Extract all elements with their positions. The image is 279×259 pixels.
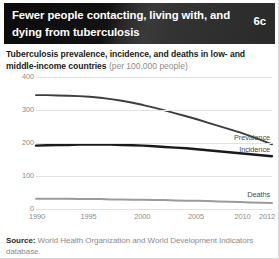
y-axis-tick-label: 300 <box>14 105 34 114</box>
line-chart: 4003002001000199019952000200520102012Pre… <box>0 0 279 259</box>
chart-panel: Fewer people contacting, living with, an… <box>0 0 279 259</box>
series-line-deaths <box>36 199 272 203</box>
gridline <box>36 110 272 111</box>
series-label-deaths: Deaths <box>0 190 270 199</box>
source-text: World Health Organization and World Deve… <box>6 236 253 256</box>
y-axis-tick-label: 100 <box>14 171 34 180</box>
x-axis-tick-label: 1990 <box>29 212 45 221</box>
gridline <box>36 176 272 177</box>
x-axis-tick-label: 2000 <box>134 212 150 221</box>
source-note: Source: World Health Organization and Wo… <box>6 236 272 257</box>
x-axis-tick-label: 2005 <box>188 212 204 221</box>
series-label-incidence: Incidence <box>0 145 270 154</box>
series-label-prevalence: Prevalence <box>0 133 270 142</box>
source-label: Source: <box>6 236 35 245</box>
gridline <box>36 209 272 210</box>
gridline <box>36 143 272 144</box>
y-axis-tick-label: 400 <box>14 72 34 81</box>
x-axis-tick-label: 2012 <box>259 212 275 221</box>
gridline <box>36 77 272 78</box>
x-axis-tick-label: 2010 <box>235 212 251 221</box>
x-axis-tick-label: 1995 <box>81 212 97 221</box>
